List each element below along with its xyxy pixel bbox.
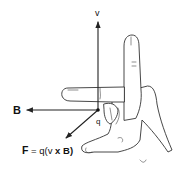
magnetic-field-label: B [13,104,21,116]
right-hand-rule-diagram: v B q F = q(v x B) [0,0,182,177]
force-equation-suffix: B) [60,145,73,156]
right-hand-icon [62,35,172,162]
force-equation-prefix: = q(v [28,145,55,156]
charge-point [96,108,100,112]
velocity-label: v [95,8,100,18]
diagram-canvas: v B q F = q(v x B) [0,0,182,177]
charge-label: q [96,117,100,126]
force-equation-label: F = q(v x B) [22,144,73,156]
force-arrow [66,110,98,138]
